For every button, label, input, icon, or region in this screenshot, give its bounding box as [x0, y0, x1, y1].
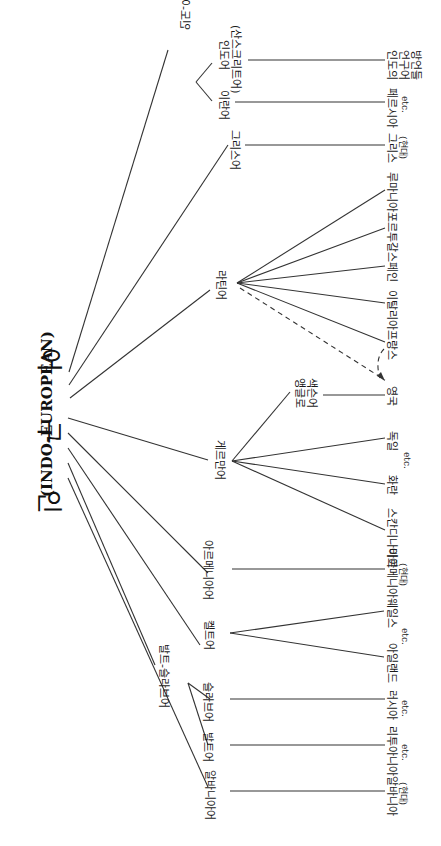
armenian-modern-label: 아르메니아 [385, 548, 398, 598]
persian-etc: etc. [400, 96, 410, 113]
irish-label: 아일랜드 [385, 643, 399, 683]
slavic-label: 슬라브어 [201, 682, 214, 722]
baltic-label: 발트어 [201, 732, 214, 762]
albanian-modern-note: (현대) [398, 782, 408, 805]
latin-group: 라틴어 루마니아 포르투갈 스페인 이탈리아 프랑스 [214, 172, 399, 381]
indo-european-tree-diagram: 인 구 어 (INDO-EUROPEAN) 인도-이란어 인도어 (산스크리트어… [0, 0, 441, 846]
english-label: 영국 [385, 386, 398, 406]
russian-etc: etc. [400, 700, 410, 717]
albanian-modern-label: 알바니아 [385, 776, 399, 816]
italian-label: 이탈리아 [385, 290, 398, 330]
germanic-label: 게르만어 [213, 440, 226, 480]
greek-modern-note: (현대) [398, 136, 408, 159]
indo-iranian-label: 인도-이란어 [178, 0, 191, 30]
germanic-etc: etc. [402, 452, 412, 469]
balto-slavic-label: 발트-슬라브어 [157, 644, 170, 708]
indic-dialects-2: 언구어 [397, 50, 410, 80]
romanian-label: 루마니아 [385, 172, 398, 212]
indic-label: 인도어 [217, 40, 230, 70]
greek-group: 그리스어 그리스 (현대) [228, 130, 408, 170]
root-edges [68, 50, 228, 787]
russian-label: 러시아 [385, 690, 398, 720]
lithuanian-label: 리투아니아 [385, 726, 398, 776]
root-english: (INDO-EUROPEAN) [38, 331, 56, 497]
iranian-label: 이란어 [217, 90, 230, 120]
latin-label: 라틴어 [214, 270, 227, 300]
portuguese-label: 포르투갈 [385, 212, 399, 252]
celtic-etc: etc. [400, 628, 410, 645]
spanish-label: 스페인 [385, 252, 398, 282]
indo-iranian-group: 인도-이란어 인도어 (산스크리트어) 이란어 인도의 언구어 방언들 페르시아… [178, 0, 422, 128]
armenian-modern-note: (현대) [398, 563, 408, 586]
celtic-group: 켈트어 웨일스 etc. 아일랜드 [202, 598, 410, 683]
indic-dialects-1: 인도의 [385, 50, 398, 80]
albanian-label: 알바니아어 [203, 770, 217, 820]
anglo-saxon-label-2: 색슨어 [305, 378, 318, 408]
persian-label: 페르시아 [385, 88, 398, 128]
sanskrit-label: (산스크리트어) [229, 25, 242, 94]
germanic-group: 게르만어 앵글로 색슨어 영국 독일 etc. 화란 스칸디나비아 [213, 378, 412, 568]
welsh-label: 웨일스 [385, 598, 399, 628]
german-label: 독일 [385, 431, 399, 451]
dutch-label: 화란 [385, 475, 398, 495]
greek-modern-label: 그리스 [385, 133, 398, 163]
root-node: 인 구 어 (INDO-EUROPEAN) [34, 331, 64, 514]
albanian-group: 알바니아어 알바니아 (현대) [203, 770, 408, 820]
armenian-label: 아르메니아어 [201, 540, 214, 600]
indic-dialects-3: 방언들 [409, 50, 422, 80]
armenian-group: 아르메니아어 아르메니아 (현대) [201, 540, 408, 600]
celtic-label: 켈트어 [202, 620, 215, 650]
anglo-saxon-label-1: 앵글로 [293, 378, 306, 408]
lithuanian-etc: etc. [400, 744, 410, 761]
balto-slavic-group: 발트-슬라브어 슬라브어 발트어 러시아 etc. 리투아니아 etc. [157, 644, 410, 776]
greek-label: 그리스어 [228, 130, 241, 170]
french-label: 프랑스 [385, 330, 398, 360]
